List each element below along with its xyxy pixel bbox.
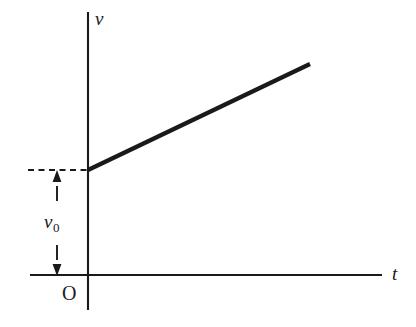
x-axis-label: t	[392, 264, 397, 283]
initial-velocity-label: v0	[44, 212, 59, 234]
plot-canvas	[0, 0, 416, 327]
velocity-data-line	[88, 64, 310, 170]
y-axis-label: v	[95, 9, 103, 28]
v0-measure-up-arrow	[53, 170, 62, 201]
origin-label: O	[62, 283, 76, 303]
v0-measure-down-arrow	[53, 245, 62, 276]
velocity-time-figure: v t O v0	[0, 0, 416, 327]
initial-velocity-symbol: v	[44, 211, 52, 232]
initial-velocity-subscript: 0	[53, 220, 60, 235]
